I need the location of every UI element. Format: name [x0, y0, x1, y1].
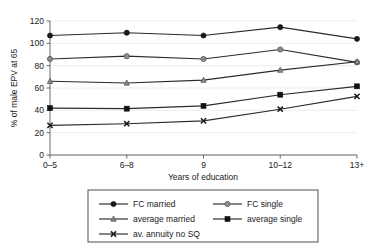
x-tick-label: 0–5 [43, 160, 57, 170]
x-tick-label: 6–8 [120, 160, 134, 170]
y-tick-label: 100 [30, 38, 44, 48]
marker-filled-circle [47, 33, 52, 38]
marker-circle [124, 54, 129, 59]
legend-label: average married [133, 214, 195, 224]
marker-circle [201, 56, 206, 61]
legend-label: FC married [133, 199, 176, 209]
x-tick-label: 10–12 [268, 160, 292, 170]
marker-square [355, 84, 360, 89]
marker-square [201, 103, 206, 108]
legend-label: av. annuity no SQ [133, 229, 200, 239]
y-axis-label: % of male EPV at 65 [9, 49, 19, 128]
marker-circle [278, 47, 283, 52]
legend-label: FC single [247, 199, 283, 209]
y-tick-label: 0 [39, 150, 44, 160]
line-chart-figure: 020406080100120 0–56–8910–1213+ % of mal… [0, 0, 367, 248]
marker-square [124, 106, 129, 111]
legend-label: average single [247, 214, 303, 224]
marker-square [278, 92, 283, 97]
x-axis-label: Years of education [168, 172, 238, 182]
marker-square [48, 106, 53, 111]
marker-circle [225, 201, 230, 206]
y-tick-label: 40 [35, 105, 45, 115]
marker-filled-circle [278, 25, 283, 30]
y-tick-label: 120 [30, 16, 44, 26]
marker-circle [47, 56, 52, 61]
y-tick-label: 60 [35, 83, 45, 93]
y-tick-label: 80 [35, 61, 45, 71]
y-tick-label: 20 [35, 128, 45, 138]
marker-filled-circle [354, 36, 359, 41]
marker-filled-circle [124, 30, 129, 35]
marker-filled-circle [201, 33, 206, 38]
marker-filled-circle [111, 201, 116, 206]
x-tick-label: 9 [201, 160, 206, 170]
marker-square [225, 217, 230, 222]
x-tick-label: 13+ [350, 160, 364, 170]
